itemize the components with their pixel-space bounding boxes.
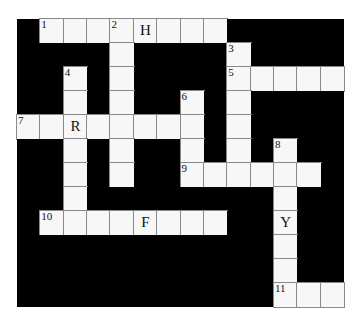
grid-cell[interactable] (110, 91, 133, 115)
black-square (87, 91, 110, 115)
black-square (204, 139, 227, 163)
grid-cell[interactable] (181, 139, 204, 163)
grid-cell[interactable] (321, 283, 344, 307)
grid-cell[interactable] (274, 235, 297, 259)
grid-cell[interactable] (181, 19, 204, 43)
grid-cell[interactable] (297, 163, 320, 187)
black-square (110, 259, 133, 283)
grid-cell[interactable] (274, 67, 297, 91)
black-square (134, 283, 157, 307)
black-square (204, 91, 227, 115)
grid-cell[interactable] (274, 259, 297, 283)
grid-cell[interactable] (110, 139, 133, 163)
grid-cell[interactable] (181, 115, 204, 139)
black-square (40, 43, 63, 67)
black-square (87, 283, 110, 307)
black-square (134, 187, 157, 211)
black-square (157, 259, 180, 283)
black-square (64, 43, 87, 67)
grid-cell[interactable] (134, 115, 157, 139)
clue-number: 9 (182, 163, 188, 174)
grid-cell[interactable]: 9 (181, 163, 204, 187)
black-square (297, 187, 320, 211)
grid-cell[interactable] (110, 43, 133, 67)
grid-cell[interactable] (321, 67, 344, 91)
black-square (157, 283, 180, 307)
grid-cell[interactable] (64, 163, 87, 187)
black-square (87, 187, 110, 211)
black-square (297, 235, 320, 259)
black-square (17, 67, 40, 91)
grid-cell[interactable] (204, 163, 227, 187)
black-square (321, 19, 344, 43)
grid-cell[interactable] (181, 211, 204, 235)
grid-cell[interactable]: Y (274, 211, 297, 235)
grid-cell[interactable] (64, 139, 87, 163)
grid-cell[interactable] (87, 19, 110, 43)
grid-cell[interactable]: 6 (181, 91, 204, 115)
black-square (297, 91, 320, 115)
grid-cell[interactable]: F (134, 211, 157, 235)
grid-cell[interactable] (110, 163, 133, 187)
grid-cell[interactable] (157, 211, 180, 235)
black-square (204, 115, 227, 139)
grid-cell[interactable] (110, 115, 133, 139)
grid-cell[interactable] (227, 91, 250, 115)
grid-cell[interactable] (251, 67, 274, 91)
grid-cell[interactable]: 11 (274, 283, 297, 307)
black-square (227, 19, 250, 43)
black-square (40, 259, 63, 283)
grid-cell[interactable]: 3 (227, 43, 250, 67)
black-square (134, 139, 157, 163)
grid-cell[interactable] (87, 115, 110, 139)
grid-cell[interactable]: 4 (64, 67, 87, 91)
grid-cell[interactable] (227, 115, 250, 139)
grid-cell[interactable] (227, 139, 250, 163)
grid-cell[interactable] (64, 19, 87, 43)
clue-number: 11 (275, 283, 286, 294)
clue-number: 8 (275, 139, 281, 150)
grid-cell[interactable]: 2 (110, 19, 133, 43)
grid-cell[interactable] (64, 187, 87, 211)
grid-cell[interactable]: R (64, 115, 87, 139)
cell-letter: R (64, 118, 87, 135)
grid-cell[interactable] (297, 283, 320, 307)
grid-cell[interactable] (204, 211, 227, 235)
black-square (227, 187, 250, 211)
black-square (40, 235, 63, 259)
black-square (17, 259, 40, 283)
grid-cell[interactable] (64, 211, 87, 235)
black-square (251, 211, 274, 235)
black-square (204, 283, 227, 307)
grid-cell[interactable] (40, 115, 63, 139)
grid-cell[interactable] (297, 67, 320, 91)
grid-cell[interactable] (227, 163, 250, 187)
grid-cell[interactable] (110, 67, 133, 91)
black-square (87, 67, 110, 91)
grid-cell[interactable] (64, 91, 87, 115)
grid-cell[interactable] (87, 211, 110, 235)
black-square (181, 235, 204, 259)
black-square (40, 283, 63, 307)
grid-cell[interactable] (204, 19, 227, 43)
grid-cell[interactable] (110, 211, 133, 235)
grid-cell[interactable]: 8 (274, 139, 297, 163)
clue-number: 10 (41, 211, 52, 222)
grid-cell[interactable]: H (134, 19, 157, 43)
grid-cell[interactable]: 10 (40, 211, 63, 235)
black-square (321, 115, 344, 139)
black-square (251, 139, 274, 163)
grid-cell[interactable] (157, 115, 180, 139)
grid-cell[interactable]: 5 (227, 67, 250, 91)
grid-cell[interactable] (274, 163, 297, 187)
grid-cell[interactable] (274, 187, 297, 211)
black-square (204, 67, 227, 91)
grid-cell[interactable]: 1 (40, 19, 63, 43)
grid-cell[interactable] (157, 19, 180, 43)
black-square (204, 43, 227, 67)
black-square (17, 283, 40, 307)
grid-cell[interactable] (251, 163, 274, 187)
black-square (157, 67, 180, 91)
clue-number: 2 (111, 19, 117, 30)
grid-cell[interactable]: 7 (17, 115, 40, 139)
